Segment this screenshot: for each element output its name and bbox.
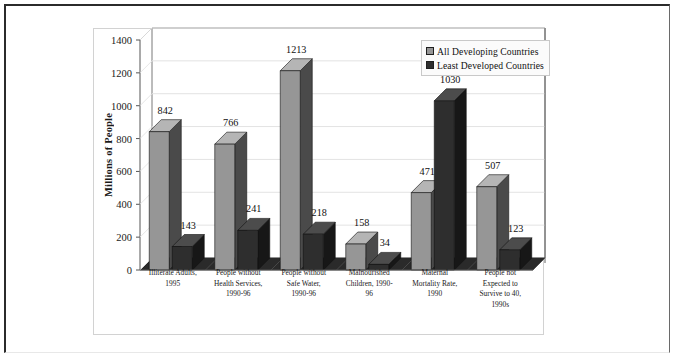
bar-value-label: 34 [380,237,390,248]
bar-value-label: 507 [485,160,500,171]
y-axis-tick-label: 1400 [98,35,132,46]
x-axis-category-label: People not Expected to Survive to 40, 19… [462,268,540,310]
bar-value-label: 842 [158,105,173,116]
chart-legend: All Developing CountriesLeast Developed … [421,40,550,76]
bar-value-label: 123 [508,223,523,234]
y-axis-tick-label: 600 [98,166,132,177]
bar-value-label: 471 [420,166,435,177]
bar-value-label: 1213 [286,44,306,55]
y-axis-tick-label: 800 [98,133,132,144]
bar-value-label: 218 [312,207,327,218]
bar-value-label: 158 [354,217,369,228]
y-axis-tick-label: 400 [98,199,132,210]
bar-value-label: 143 [181,220,196,231]
legend-color-swatch-icon [426,61,434,69]
y-axis-tick-label: 1200 [98,67,132,78]
bar-value-label: 241 [246,203,261,214]
legend-item-label: All Developing Countries [437,46,539,57]
y-axis-tick-label: 0 [98,265,132,276]
y-axis-tick-label: 200 [98,232,132,243]
legend-item-label: Least Developed Countries [437,60,544,71]
y-axis-tick-label: 1000 [98,100,132,111]
bar-value-label: 766 [223,117,238,128]
legend-item[interactable]: All Developing Countries [426,44,544,58]
legend-item[interactable]: Least Developed Countries [426,58,544,72]
legend-color-swatch-icon [426,47,434,55]
